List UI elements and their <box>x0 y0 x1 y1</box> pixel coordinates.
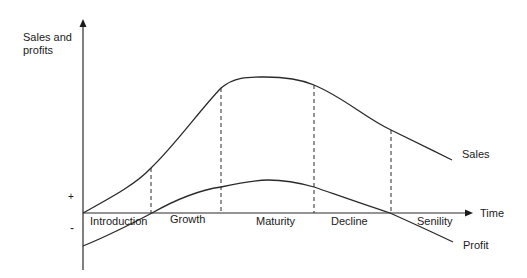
stage-label-introduction: Introduction <box>90 215 147 228</box>
profit-curve-label: Profit <box>463 239 489 252</box>
y-axis-label-line2: profits <box>23 44 72 57</box>
stage-label-growth: Growth <box>170 213 205 226</box>
stage-label-decline: Decline <box>331 215 368 228</box>
time-axis-arrow-icon <box>465 210 473 217</box>
y-axis-arrow-icon <box>80 19 87 27</box>
y-axis-label: Sales and profits <box>23 31 72 57</box>
positive-sign: + <box>68 190 74 203</box>
x-axis-label: Time <box>480 207 504 220</box>
plc-diagram <box>0 0 527 278</box>
sales-curve-label: Sales <box>462 148 490 161</box>
stage-label-senility: Senility <box>417 215 452 228</box>
y-axis-label-line1: Sales and <box>23 31 72 44</box>
negative-sign: - <box>70 222 74 235</box>
sales-curve <box>83 77 452 213</box>
stage-label-maturity: Maturity <box>256 215 295 228</box>
